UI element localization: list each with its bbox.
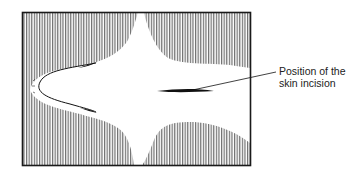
hatched-background bbox=[23, 13, 250, 165]
incision-label: Position of the skin incision bbox=[279, 65, 346, 89]
label-line-1: Position of the bbox=[279, 65, 346, 77]
label-line-2: skin incision bbox=[279, 77, 346, 89]
